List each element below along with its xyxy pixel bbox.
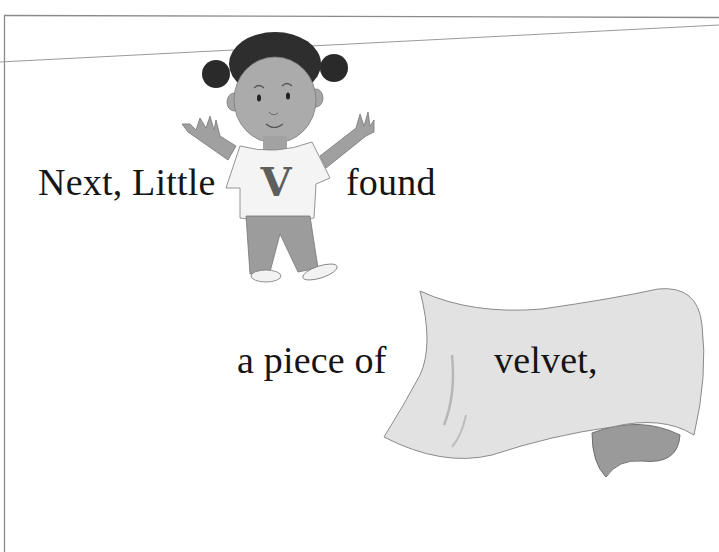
story-text-next-little: Next, Little bbox=[38, 163, 216, 201]
velvet-fabric-illustration bbox=[382, 285, 712, 485]
fabric-curl bbox=[592, 424, 680, 477]
story-text-velvet: velvet, bbox=[494, 341, 598, 379]
story-text-a-piece-of: a piece of bbox=[237, 341, 387, 379]
right-pigtail bbox=[320, 54, 348, 82]
left-pigtail bbox=[202, 60, 230, 88]
left-arm bbox=[182, 116, 236, 160]
book-page: V Next, Little found a piece of velvet, bbox=[0, 0, 719, 552]
right-arm bbox=[320, 112, 374, 168]
left-shoe bbox=[251, 270, 281, 282]
story-text-found: found bbox=[346, 163, 436, 201]
girl-character-illustration: V bbox=[170, 28, 380, 290]
pants bbox=[246, 216, 318, 274]
face bbox=[234, 57, 316, 143]
shirt-letter-v: V bbox=[259, 158, 292, 205]
